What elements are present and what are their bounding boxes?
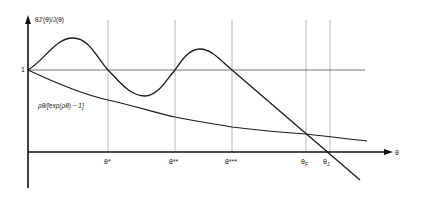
y-tick-one: 1	[21, 66, 25, 73]
x-tick-theta-3star: θ***	[225, 158, 237, 165]
x-axis-arrow-icon	[384, 149, 393, 155]
x-tick-theta-f-sub: F	[305, 161, 308, 167]
discount-curve-label: ρθ/[exp(ρθ) − 1]	[38, 102, 84, 109]
x-tick-theta-f: θF	[301, 158, 308, 167]
x-tick-theta-j: θJ	[323, 158, 329, 167]
y-axis-arrow-icon	[25, 15, 31, 24]
x-axis-label: θ	[395, 149, 399, 156]
elasticity-curve	[28, 38, 360, 180]
y-axis-label: θJ′(θ)/J(θ)	[35, 16, 64, 23]
x-tick-theta-star: θ*	[104, 158, 111, 165]
x-tick-theta-j-sub: J	[327, 161, 330, 167]
x-tick-theta-2star: θ**	[169, 158, 178, 165]
